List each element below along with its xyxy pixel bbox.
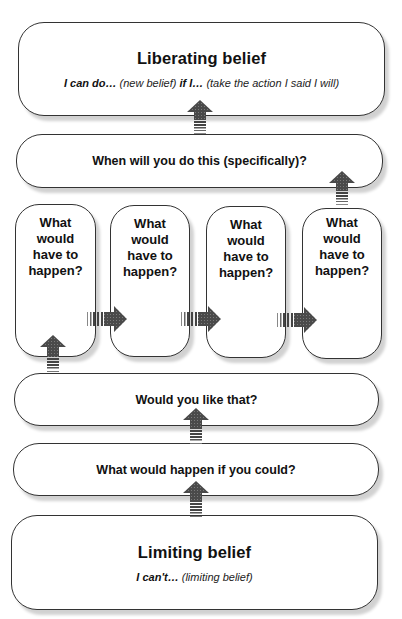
limiting-belief-box: Limiting belief I can't… (limiting belie…: [11, 515, 378, 610]
step-box-2: What would have to happen?: [110, 205, 190, 357]
like-question: Would you like that?: [136, 393, 258, 407]
limiting-part-1: I can't…: [136, 571, 178, 583]
up-arrow-icon: [182, 481, 210, 525]
liberating-part-3: if I…: [179, 77, 203, 89]
limiting-belief-title: Limiting belief: [138, 543, 251, 562]
liberating-part-2: (new belief): [117, 77, 180, 89]
liberating-belief-title: Liberating belief: [137, 49, 266, 68]
step-box-4: What would have to happen?: [302, 208, 382, 359]
limiting-belief-statement: I can't… (limiting belief): [136, 571, 252, 583]
limiting-part-2: (limiting belief): [179, 571, 253, 583]
right-arrow-icon: [276, 306, 318, 334]
liberating-belief-statement: I can do… (new belief) if I… (take the a…: [64, 77, 339, 89]
up-arrow-icon: [182, 408, 210, 452]
up-arrow-icon: [186, 100, 214, 136]
step-box-3: What would have to happen?: [206, 206, 286, 358]
step-question-1: What would have to happen?: [21, 215, 91, 279]
step-question-2: What would have to happen?: [115, 216, 185, 280]
step-question-4: What would have to happen?: [307, 215, 377, 279]
could-question: What would happen if you could?: [96, 463, 295, 477]
right-arrow-icon: [180, 305, 222, 333]
step-question-3: What would have to happen?: [211, 217, 281, 281]
when-question: When will you do this (specifically)?: [92, 154, 307, 168]
liberating-part-1: I can do…: [64, 77, 117, 89]
up-arrow-icon: [39, 335, 67, 379]
right-arrow-icon: [86, 305, 128, 333]
up-arrow-icon: [328, 171, 356, 211]
liberating-part-4: (take the action I said I will): [203, 77, 339, 89]
